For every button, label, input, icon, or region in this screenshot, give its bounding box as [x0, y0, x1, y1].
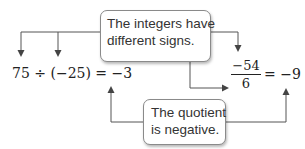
fraction-result: = −9 — [264, 66, 301, 82]
fraction: −54 6 — [231, 58, 261, 91]
arrow-to-neg3 — [108, 86, 144, 122]
arrow-to-neg25 — [55, 32, 62, 57]
arrow-to-6 — [190, 62, 229, 92]
callout-top-line2: different signs. — [107, 32, 204, 49]
arrow-to-neg9 — [225, 88, 290, 122]
callout-bottom-line1: The quotient — [151, 104, 218, 121]
callout-different-signs: The integers have different signs. — [100, 10, 211, 62]
fraction-numerator: −54 — [231, 58, 261, 75]
arrow-to-neg54 — [210, 32, 242, 52]
callout-bottom-line2: is negative. — [151, 121, 218, 138]
callout-top-line1: The integers have — [107, 15, 204, 32]
division-expression: 75 ÷ (−25) = −3 — [12, 65, 132, 81]
fraction-denominator: 6 — [231, 75, 261, 91]
callout-quotient-negative: The quotient is negative. — [143, 99, 226, 145]
